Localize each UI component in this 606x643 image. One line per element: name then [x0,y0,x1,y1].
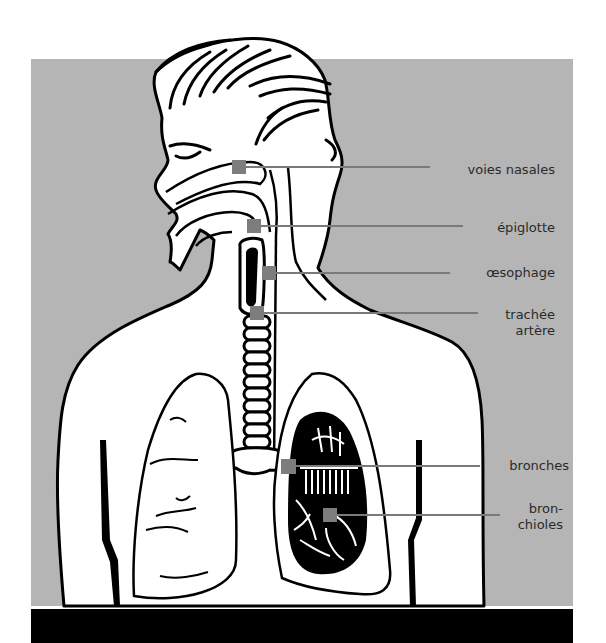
marker-nasal [232,160,246,174]
label-trachee-line1: trachée [505,307,555,323]
label-bronchioles: bron- chioles [518,501,563,533]
respiratory-diagram: voies nasales épiglotte œsophage trachée… [0,0,606,643]
label-epiglotte: épiglotte [497,220,555,236]
marker-esophagus [262,266,276,280]
esophagus-shape [240,238,265,314]
marker-bronchi [281,459,296,474]
marker-epiglottis [247,219,261,233]
marker-trachea [250,306,264,320]
label-bronchioles-line2: chioles [518,517,563,533]
marker-bronchioles [323,508,337,522]
label-trachee-artere: trachée artère [505,307,555,339]
label-voies-nasales: voies nasales [468,162,556,178]
label-bronchioles-line1: bron- [518,501,563,517]
label-trachee-line2: artère [505,323,555,339]
label-oesophage: œsophage [486,265,555,281]
label-bronches: bronches [509,458,569,474]
